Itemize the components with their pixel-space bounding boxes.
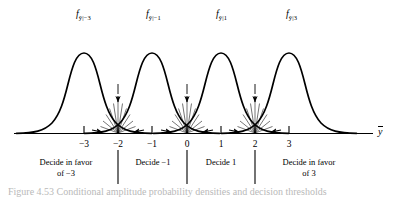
figure-container: fŷ|−3 fŷ|−1 fŷ|1 fŷ|3 −3 −2 −1 0 1 2 3 y… xyxy=(0,0,400,198)
tick-label-minus1: −1 xyxy=(140,140,164,150)
decision-region-line1: Decide −1 xyxy=(122,157,184,168)
density-curves xyxy=(17,53,357,133)
axis-label-text: y xyxy=(378,127,382,137)
decision-region-label-minus1: Decide −1 xyxy=(122,157,184,168)
curve-label-subscript: ŷ|1 xyxy=(219,14,227,21)
curve-label-subscript: ŷ|−1 xyxy=(149,14,161,21)
curve-label-1: fŷ|1 xyxy=(216,9,227,21)
tick-label-two: 2 xyxy=(243,140,267,150)
density-curve-1 xyxy=(154,53,289,133)
tick-label-zero: 0 xyxy=(175,140,199,150)
decision-region-line1: Decide 1 xyxy=(191,157,251,168)
curve-label-subscript: ŷ|3 xyxy=(289,14,297,21)
density-curve-3 xyxy=(222,53,357,133)
curve-label-minus3: fŷ|−3 xyxy=(76,9,91,21)
curve-label-subscript: ŷ|−3 xyxy=(79,14,91,21)
axis-label-ybar: y xyxy=(378,127,382,137)
curve-label-minus1: fŷ|−1 xyxy=(146,9,161,21)
tick-label-three: 3 xyxy=(277,140,301,150)
curve-label-3: fŷ|3 xyxy=(286,9,297,21)
figure-caption: Figure 4.53 Conditional amplitude probab… xyxy=(8,186,392,198)
decision-region-line1: Decide in favor xyxy=(16,157,116,168)
decision-region-label-3: Decide in favor of 3 xyxy=(259,157,359,180)
tick-label-minus2: −2 xyxy=(106,140,130,150)
density-curve-minus1 xyxy=(85,53,220,133)
density-curve-minus3 xyxy=(17,53,152,133)
decision-region-label-minus3: Decide in favor of −3 xyxy=(16,157,116,180)
tick-label-one: 1 xyxy=(209,140,233,150)
decision-region-label-1: Decide 1 xyxy=(191,157,251,168)
threshold-indicators xyxy=(118,84,255,102)
decision-region-line1: Decide in favor xyxy=(259,157,359,168)
decision-region-line2: of −3 xyxy=(16,168,116,179)
decision-region-line2: of 3 xyxy=(259,168,359,179)
tick-label-minus3: −3 xyxy=(72,140,96,150)
